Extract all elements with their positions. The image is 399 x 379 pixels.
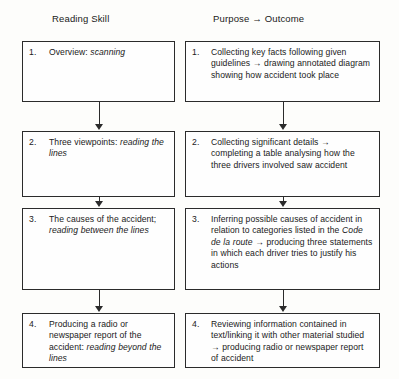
flow-node-right-3: 3. Inferring possible causes of accident… <box>185 208 380 290</box>
flow-node-number: 1. <box>29 47 49 58</box>
flow-node-number: 2. <box>29 137 49 148</box>
flow-node-left-3: 3. The causes of the accident; reading b… <box>22 208 175 290</box>
column-header-purpose-outcome: Purpose → Outcome <box>213 13 304 24</box>
flow-node-left-2: 2. Three viewpoints: reading the lines <box>22 131 175 197</box>
connector-right-1-to-2 <box>283 102 284 125</box>
diagram-canvas: Reading Skill Purpose → Outcome 1. Overv… <box>0 0 399 379</box>
flow-node-right-1: 1. Collecting key facts following given … <box>185 41 380 102</box>
arrowhead-right-3-to-4 <box>279 306 287 312</box>
flow-node-text: Reviewing information contained in text/… <box>211 319 373 365</box>
flow-node-number: 1. <box>192 47 211 58</box>
flow-node-text: Producing a radio or newspaper report of… <box>49 319 168 365</box>
flow-node-text: Collecting significant details → complet… <box>211 137 373 171</box>
flow-node-number: 4. <box>29 319 49 330</box>
flow-node-text: Inferring possible causes of accident in… <box>211 214 373 271</box>
flow-node-number: 3. <box>29 214 49 225</box>
flow-node-number: 3. <box>192 214 211 225</box>
flow-node-right-4: 4. Reviewing information contained in te… <box>185 313 380 368</box>
connector-left-1-to-2 <box>99 102 100 125</box>
column-header-reading-skill: Reading Skill <box>52 13 109 24</box>
arrowhead-left-2-to-3 <box>95 201 103 207</box>
arrowhead-left-1-to-2 <box>95 124 103 130</box>
flow-node-number: 4. <box>192 319 211 330</box>
cropped-caption-remnant <box>6 0 64 11</box>
flow-node-text: Three viewpoints: reading the lines <box>49 137 168 160</box>
arrowhead-left-3-to-4 <box>95 306 103 312</box>
flow-node-right-2: 2. Collecting significant details → comp… <box>185 131 380 197</box>
arrowhead-right-1-to-2 <box>279 124 287 130</box>
flow-node-text: Overview: scanning <box>49 47 168 58</box>
flow-node-left-1: 1. Overview: scanning <box>22 41 175 102</box>
flow-node-text: The causes of the accident; reading betw… <box>49 214 168 237</box>
flow-node-number: 2. <box>192 137 211 148</box>
arrowhead-right-2-to-3 <box>279 201 287 207</box>
flow-node-left-4: 4. Producing a radio or newspaper report… <box>22 313 175 368</box>
flow-node-text: Collecting key facts following given gui… <box>211 47 373 81</box>
